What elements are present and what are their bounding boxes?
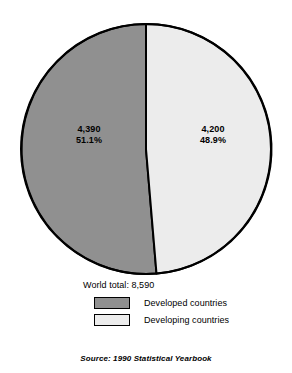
pie-slice-developed[interactable]	[22, 24, 157, 274]
pie-slice-label-developed: 4,390 51.1%	[58, 124, 120, 146]
pie-chart: 4,390 51.1% 4,200 48.9%	[0, 0, 292, 292]
pie-svg	[0, 0, 292, 292]
pie-slice-value-developing: 4,200	[182, 124, 244, 135]
pie-slice-developing[interactable]	[146, 24, 272, 274]
pie-slice-percent-developed: 51.1%	[58, 135, 120, 146]
legend-label-developed: Developed countries	[144, 297, 227, 309]
legend-item-developing[interactable]: Developing countries	[83, 311, 273, 328]
source-note: Source: 1990 Statistical Yearbook	[0, 354, 292, 363]
pie-slice-label-developing: 4,200 48.9%	[182, 124, 244, 146]
pie-slice-value-developed: 4,390	[58, 124, 120, 135]
pie-slice-percent-developing: 48.9%	[182, 135, 244, 146]
legend-label-developing: Developing countries	[144, 314, 229, 326]
legend-swatch-developed	[94, 297, 130, 309]
legend-item-developed[interactable]: Developed countries	[83, 294, 273, 311]
pie-chart-figure: 4,390 51.1% 4,200 48.9% World total: 8,5…	[0, 0, 292, 373]
legend-swatch-developing	[94, 314, 130, 326]
chart-legend: World total: 8,590 Developed countries D…	[83, 279, 273, 328]
world-total-label: World total: 8,590	[83, 279, 273, 291]
